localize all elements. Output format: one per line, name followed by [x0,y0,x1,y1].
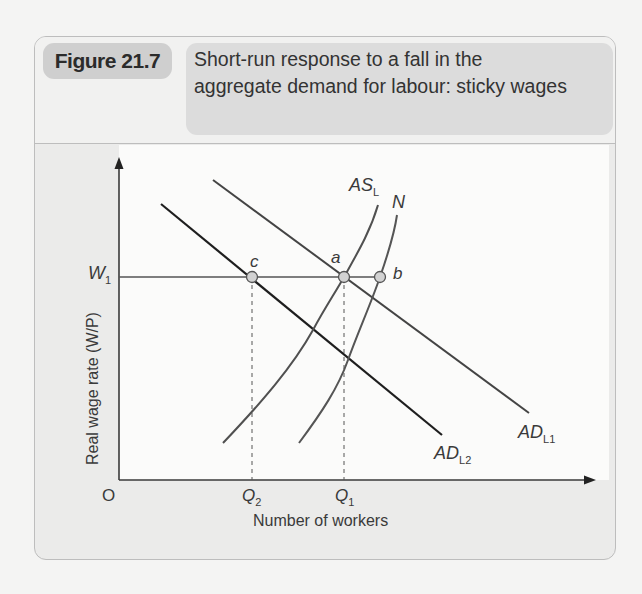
asl-curve-label: ASL [349,175,379,196]
origin-label: O [102,486,115,506]
q1-main: Q [335,486,348,505]
q1-tick-label: Q1 [335,486,354,506]
asl-main: AS [349,175,373,195]
y-axis-label: Real wage rate (W/P) [84,312,102,465]
adl1-sub: L1 [543,433,555,445]
adl1-curve-label: ADL1 [518,422,555,443]
q2-tick-label: Q2 [242,486,261,506]
x-axis-label: Number of workers [253,512,388,530]
point-a-label: a [331,248,340,268]
point-b-label: b [393,264,402,284]
point-c-marker [247,272,258,283]
asl-sub: L [373,186,379,198]
adl2-sub: L2 [459,454,471,466]
adl1-main: AD [518,422,543,442]
point-b-marker [375,272,386,283]
n-curve-label: N [392,192,405,213]
q2-sub: 2 [255,496,261,508]
q1-sub: 1 [348,496,354,508]
adl2-curve-label: ADL2 [434,443,471,464]
point-a-marker [339,272,350,283]
point-c-label: c [250,252,259,272]
q2-main: Q [242,486,255,505]
chart-plot [0,0,642,594]
w1-sub: 1 [105,274,111,286]
adl2-main: AD [434,443,459,463]
w1-main: W [88,263,105,283]
w1-tick-label: W1 [88,263,111,284]
